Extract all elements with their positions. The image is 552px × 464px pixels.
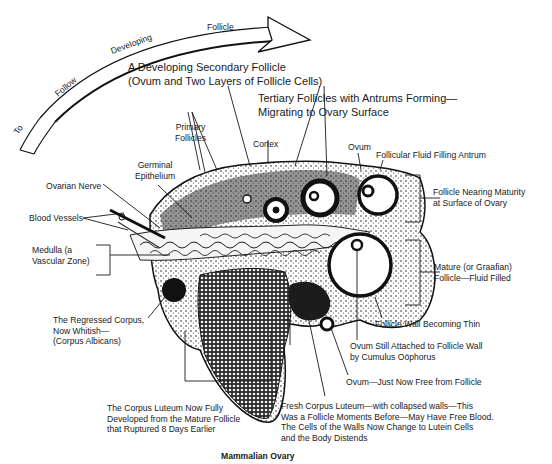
arrow-word-developing: Developing: [109, 32, 153, 56]
label-tertiary-follicles: Tertiary Follicles with Antrums Forming—…: [258, 92, 457, 119]
label-follicle-wall-thin: Follicle Wall Becoming Thin: [375, 319, 480, 330]
arrow-word-to: To: [11, 123, 25, 136]
label-primary-follicles: Primary Follicles: [175, 122, 206, 143]
label-corpus-luteum-developed: The Corpus Luteum Now Fully Developed fr…: [107, 403, 240, 435]
label-fresh-corpus-luteum: Fresh Corpus Luteum—with collapsed walls…: [281, 401, 494, 443]
label-germinal-epithelium: Germinal Epithelium: [135, 160, 175, 181]
arrow-word-follicle: Follicle: [207, 22, 234, 32]
label-ovum-free: Ovum—Just Now Free from Follicle: [346, 377, 482, 388]
label-secondary-follicle: A Developing Secondary Follicle (Ovum an…: [128, 61, 322, 88]
label-mature-follicle: Mature (or Graafian) Follicle—Fluid Fill…: [434, 262, 512, 283]
label-follicular-fluid: Follicular Fluid Filling Antrum: [376, 150, 486, 161]
label-ovum-attached: Ovum Still Attached to Follicle Wall by …: [350, 341, 482, 362]
diagram-title: Mammalian Ovary: [221, 451, 295, 462]
label-medulla: Medulla (a Vascular Zone): [32, 245, 90, 266]
label-blood-vessels: Blood Vessels: [29, 213, 83, 224]
label-cortex: Cortex: [253, 139, 278, 150]
label-ovarian-nerve: Ovarian Nerve: [46, 181, 101, 192]
corpus-albicans: [162, 278, 186, 302]
label-ovum-top: Ovum: [348, 142, 371, 153]
label-follicle-nearing-maturity: Follicle Nearing Maturity at Surface of …: [433, 187, 525, 208]
label-regressed-corpus: The Regressed Corpus, Now Whitish— (Corp…: [53, 315, 144, 347]
